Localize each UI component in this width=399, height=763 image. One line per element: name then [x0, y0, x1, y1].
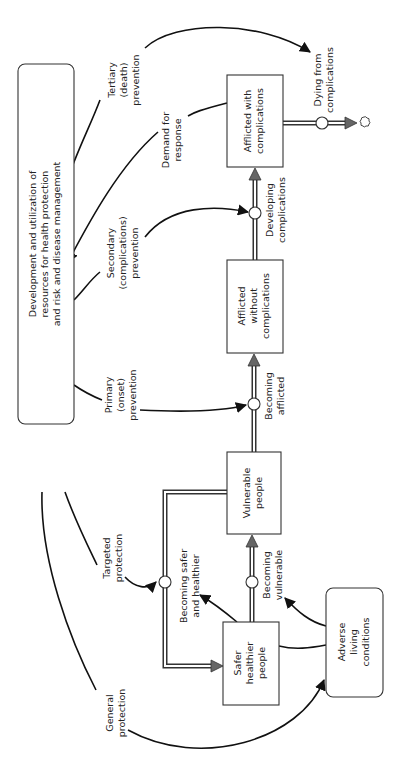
svg-text:General: General	[104, 694, 115, 731]
svg-text:people: people	[256, 647, 267, 679]
secondary-prevention-link	[145, 208, 248, 237]
becoming-vulnerable-pipe	[246, 535, 258, 622]
cloud-icon	[360, 117, 370, 127]
valve-circle-icon	[159, 576, 171, 588]
svg-text:Safer: Safer	[232, 650, 243, 675]
svg-text:Vulnerable: Vulnerable	[241, 468, 252, 519]
dying-label: Dying from complications	[312, 47, 335, 113]
svg-text:and healthier: and healthier	[190, 554, 201, 617]
svg-text:(onset): (onset)	[115, 378, 126, 412]
safer-to-becoming-safer-link	[200, 595, 237, 622]
developing-complications-pipe	[249, 168, 261, 260]
svg-text:Becoming: Becoming	[263, 372, 274, 419]
secondary-box-link	[74, 272, 100, 300]
general-protection-label: General protection	[104, 689, 127, 738]
svg-text:Tertiary: Tertiary	[106, 62, 117, 99]
svg-text:Secondary: Secondary	[105, 227, 116, 278]
svg-text:conditions: conditions	[360, 618, 371, 667]
developing-complications-label: Developing complications	[264, 177, 287, 243]
afflicted-with-label: Afflicted with complications	[242, 88, 265, 154]
tertiary-prevention-link	[145, 27, 310, 52]
tertiary-prevention-label: Tertiary (death) prevention	[106, 54, 141, 105]
svg-text:afflicted: afflicted	[275, 377, 286, 415]
svg-text:Targeted: Targeted	[101, 537, 112, 579]
primary-box-link	[74, 385, 102, 400]
becoming-vulnerable-label: Becoming vulnerable	[261, 550, 284, 601]
svg-text:response: response	[172, 118, 183, 161]
svg-text:living: living	[348, 629, 359, 655]
svg-text:Becoming: Becoming	[261, 551, 272, 598]
general-box-link	[42, 492, 96, 690]
valve-circle-icon	[316, 117, 328, 129]
svg-text:complications: complications	[260, 273, 271, 339]
triangle-arrowhead-icon	[345, 117, 357, 129]
svg-text:without: without	[248, 288, 259, 324]
svg-text:prevention: prevention	[130, 54, 141, 105]
stock-flow-diagram: Development and utilization of resources…	[0, 0, 399, 763]
triangle-arrowhead-icon	[246, 535, 258, 547]
svg-text:resources for health protectio: resources for health protection	[39, 171, 50, 318]
svg-text:Developing: Developing	[264, 183, 275, 237]
svg-text:prevention: prevention	[127, 369, 138, 420]
becoming-afflicted-pipe	[248, 354, 260, 452]
becoming-afflicted-label: Becoming afflicted	[263, 372, 286, 419]
svg-text:protection: protection	[113, 534, 124, 583]
svg-text:(complications): (complications)	[117, 216, 128, 289]
svg-text:Primary: Primary	[103, 376, 114, 413]
svg-text:complications: complications	[276, 177, 287, 243]
demand-for-response-label: Demand for response	[160, 112, 183, 168]
primary-prevention-label: Primary (onset) prevention	[103, 369, 138, 420]
svg-text:Afflicted: Afflicted	[236, 286, 247, 325]
triangle-arrowhead-icon	[211, 660, 223, 672]
svg-text:Demand for: Demand for	[160, 112, 171, 168]
svg-text:Adverse: Adverse	[336, 623, 347, 662]
svg-text:Development and utilization of: Development and utilization of	[27, 170, 38, 317]
svg-text:healthier: healthier	[244, 642, 255, 685]
svg-text:vulnerable: vulnerable	[273, 550, 284, 601]
adverse-to-vulnerable-link	[285, 598, 326, 626]
primary-prevention-link	[140, 405, 246, 411]
safer-to-adverse-link	[279, 645, 326, 648]
valve-circle-icon	[246, 576, 258, 588]
central-box-label: Development and utilization of resources…	[27, 161, 62, 326]
svg-text:protection: protection	[116, 689, 127, 738]
svg-text:Becoming safer: Becoming safer	[178, 549, 189, 623]
demand-for-response-link	[188, 103, 227, 116]
svg-text:complications: complications	[324, 47, 335, 113]
valve-circle-icon	[249, 207, 261, 219]
triangle-arrowhead-icon	[249, 168, 261, 180]
dying-pipe	[283, 117, 370, 129]
svg-text:Afflicted with: Afflicted with	[242, 90, 253, 152]
secondary-prevention-label: Secondary (complications) prevention	[105, 216, 140, 289]
valve-circle-icon	[248, 398, 260, 410]
svg-text:and risk and disease managemen: and risk and disease management	[51, 161, 62, 326]
becoming-safer-label: Becoming safer and healthier	[178, 549, 201, 623]
triangle-arrowhead-icon	[248, 354, 260, 366]
targeted-protection-link	[125, 577, 156, 587]
svg-text:people: people	[253, 477, 264, 509]
targeted-box-link	[65, 492, 97, 565]
targeted-protection-label: Targeted protection	[101, 534, 124, 583]
svg-text:complications: complications	[254, 88, 265, 154]
svg-text:prevention: prevention	[129, 227, 140, 278]
svg-text:(death): (death)	[118, 63, 129, 98]
svg-text:Dying from: Dying from	[312, 54, 323, 107]
